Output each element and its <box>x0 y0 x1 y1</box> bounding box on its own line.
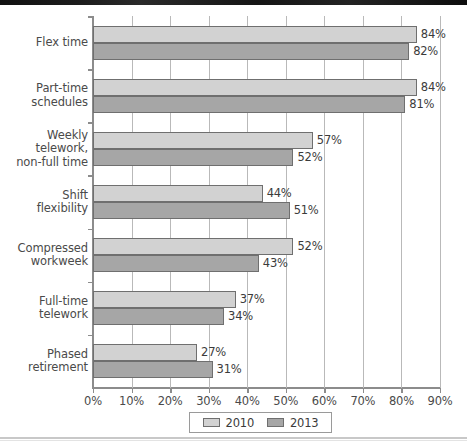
bar-value-label: 84% <box>421 79 446 96</box>
x-axis-tick <box>363 388 364 393</box>
bar-2010 <box>93 238 293 255</box>
scan-edge-rule-bottom <box>0 437 467 439</box>
bar-value-label: 51% <box>294 202 319 219</box>
y-axis-tick <box>88 122 93 124</box>
x-axis-tick <box>247 388 248 393</box>
y-axis-tick <box>88 175 93 177</box>
category-label-line: Full-time <box>2 295 88 309</box>
category-label-line: schedules <box>2 96 88 110</box>
category-label-line: flexibility <box>2 202 88 216</box>
category-label-line: telework <box>2 308 88 322</box>
legend-swatch <box>203 418 220 427</box>
x-axis-tick <box>324 388 325 393</box>
bar-2013 <box>93 308 224 325</box>
legend-swatch <box>267 418 284 427</box>
bar-2013 <box>93 96 405 113</box>
x-axis-tick-label: 10% <box>112 394 152 408</box>
x-axis-tick <box>401 388 402 393</box>
bar-value-label: 43% <box>263 255 288 272</box>
bar-value-label: 27% <box>201 344 226 361</box>
x-axis-tick-label: 90% <box>420 394 460 408</box>
bar-value-label: 37% <box>240 291 265 308</box>
bar-value-label: 44% <box>267 185 292 202</box>
bar-value-label: 82% <box>413 43 438 60</box>
bar-2010 <box>93 132 313 149</box>
legend-item-2010: 2010 <box>203 416 254 430</box>
y-axis-tick <box>88 16 93 18</box>
x-axis-tick <box>93 388 94 393</box>
bar-chart-figure: Flex timePart-timeschedulesWeeklytelewor… <box>0 0 467 448</box>
bar-2013 <box>93 255 259 272</box>
x-axis-tick-labels: 0%10%20%30%40%50%60%70%80%90% <box>0 394 467 410</box>
category-label-line: Flex time <box>2 36 88 50</box>
category-label: Flex time <box>2 36 88 50</box>
bar-value-label: 34% <box>228 308 253 325</box>
legend-label: 2010 <box>226 416 254 430</box>
category-label-line: Shift <box>2 189 88 203</box>
bar-group: 37%34% <box>93 291 440 325</box>
category-label: Weeklytelework,non-full time <box>2 129 88 170</box>
bar-2010 <box>93 185 263 202</box>
category-label: Shiftflexibility <box>2 189 88 216</box>
x-axis-tick-label: 40% <box>227 394 267 408</box>
category-label: Compressedworkweek <box>2 242 88 269</box>
bar-value-label: 31% <box>217 361 242 378</box>
plot-area: 84%82%84%81%57%52%44%51%52%43%37%34%27%3… <box>93 16 440 388</box>
chart-legend: 20102013 <box>189 412 332 433</box>
y-axis-tick <box>88 229 93 231</box>
bar-2013 <box>93 361 213 378</box>
x-axis-tick <box>286 388 287 393</box>
category-label-line: telework, <box>2 142 88 156</box>
y-axis-tick <box>88 335 93 337</box>
category-label-line: Compressed <box>2 242 88 256</box>
gridline-90 <box>440 16 441 388</box>
x-axis-tick-label: 80% <box>381 394 421 408</box>
category-label-line: Weekly <box>2 129 88 143</box>
category-label: Part-timeschedules <box>2 82 88 109</box>
bar-group: 44%51% <box>93 185 440 219</box>
bar-2010 <box>93 26 417 43</box>
x-axis-tick-label: 50% <box>266 394 306 408</box>
category-label: Phasedretirement <box>2 348 88 375</box>
x-axis-tick-label: 30% <box>189 394 229 408</box>
bar-value-label: 57% <box>317 132 342 149</box>
legend-label: 2013 <box>290 416 318 430</box>
category-label-line: workweek <box>2 255 88 269</box>
bar-group: 84%81% <box>93 79 440 113</box>
scan-edge-rule-bottom-soft <box>0 440 467 441</box>
bar-group: 27%31% <box>93 344 440 378</box>
bar-value-label: 52% <box>297 238 322 255</box>
category-label-line: non-full time <box>2 156 88 170</box>
y-axis-tick <box>88 69 93 71</box>
bar-2010 <box>93 291 236 308</box>
x-axis-tick <box>440 388 441 393</box>
bar-2013 <box>93 43 409 60</box>
category-axis-labels: Flex timePart-timeschedulesWeeklytelewor… <box>0 16 88 388</box>
bar-group: 52%43% <box>93 238 440 272</box>
legend-item-2013: 2013 <box>267 416 318 430</box>
bar-value-label: 52% <box>297 149 322 166</box>
x-axis-tick-label: 0% <box>73 394 113 408</box>
bar-value-label: 84% <box>421 26 446 43</box>
bar-value-label: 81% <box>409 96 434 113</box>
x-axis-tick <box>209 388 210 393</box>
category-label-line: Part-time <box>2 82 88 96</box>
bar-2010 <box>93 344 197 361</box>
bar-2013 <box>93 202 290 219</box>
bar-group: 57%52% <box>93 132 440 166</box>
x-axis-tick-label: 60% <box>304 394 344 408</box>
x-axis-tick <box>170 388 171 393</box>
bar-2010 <box>93 79 417 96</box>
category-label-line: retirement <box>2 361 88 375</box>
y-axis-tick <box>88 282 93 284</box>
category-label: Full-timetelework <box>2 295 88 322</box>
bar-2013 <box>93 149 293 166</box>
x-axis-tick-label: 70% <box>343 394 383 408</box>
x-axis-tick-label: 20% <box>150 394 190 408</box>
x-axis-tick <box>132 388 133 393</box>
category-label-line: Phased <box>2 348 88 362</box>
bar-group: 84%82% <box>93 26 440 60</box>
